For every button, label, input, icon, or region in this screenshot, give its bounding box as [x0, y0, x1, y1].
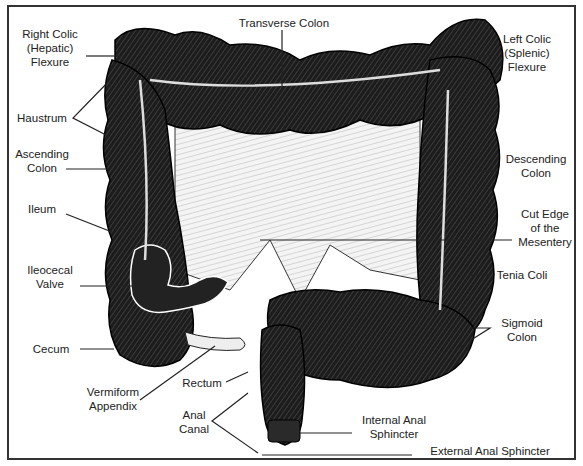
mesentery-shape	[175, 110, 420, 300]
label-vermiform-appendix: Vermiform Appendix	[80, 385, 146, 413]
label-ileum: Ileum	[22, 202, 62, 216]
label-left-colic-flexure: Left Colic (Splenic) Flexure	[495, 32, 559, 74]
descending-colon-shape	[417, 57, 500, 340]
label-rectum: Rectum	[178, 376, 226, 390]
label-cut-edge-mesentery: Cut Edge of the Mesentery	[512, 207, 578, 249]
appendix-shape	[185, 332, 245, 350]
label-descending-colon: Descending Colon	[500, 152, 572, 180]
label-haustrum: Haustrum	[12, 111, 72, 125]
label-external-anal-sphincter: External Anal Sphincter	[420, 444, 560, 458]
label-anal-canal: Anal Canal	[176, 408, 212, 436]
label-sigmoid-colon: Sigmoid Colon	[494, 316, 550, 344]
label-ileocecal-valve: Ileocecal Valve	[20, 263, 80, 291]
label-tenia-coli: Tenia Coli	[492, 268, 552, 282]
label-transverse-colon: Transverse Colon	[236, 16, 332, 30]
label-right-colic-flexure: Right Colic (Hepatic) Flexure	[14, 27, 86, 69]
label-cecum: Cecum	[26, 342, 76, 356]
anal-canal-shape	[268, 420, 300, 442]
label-ascending-colon: Ascending Colon	[12, 147, 72, 175]
label-internal-anal-sphincter: Internal Anal Sphincter	[354, 413, 434, 441]
